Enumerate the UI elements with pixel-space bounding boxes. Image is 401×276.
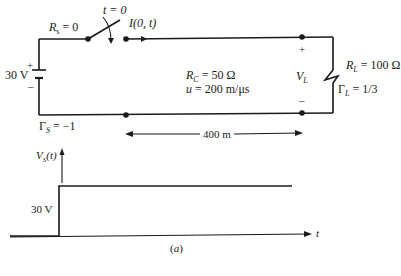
load-reflection-label: ΓL = 1/3 [338, 82, 378, 98]
switch-blade [88, 20, 120, 39]
x-axis-label: t [316, 227, 320, 239]
load-plus-sign: + [299, 43, 305, 55]
source-resistance-label: Rs = 0 [48, 20, 78, 36]
source-plus-sign: + [27, 59, 33, 71]
length-arrowhead-right-icon [295, 130, 303, 136]
load-voltage-label: VL [296, 69, 308, 85]
x-axis-arrowhead-icon [304, 231, 312, 237]
transmission-line-diagram: Rs = 0 t = 0 I(0, t) 30 V + – ΓS = −1 RC… [0, 0, 401, 276]
current-arrow-icon [141, 36, 147, 42]
load-top-dot [299, 34, 305, 40]
input-bottom-dot [123, 112, 129, 118]
load-bottom-dot [299, 110, 305, 116]
source-reflection-label: ΓS = −1 [39, 119, 75, 135]
source-minus-sign: – [27, 80, 34, 92]
step-value-label: 30 V [31, 203, 53, 215]
bottom-line-conductor [39, 113, 333, 115]
y-axis-label: VS(t) [36, 149, 57, 164]
current-label: I(0, t) [128, 16, 156, 30]
y-axis-arrowhead-icon [60, 148, 65, 155]
source-voltage-graph: VS(t) t 30 V (a) [10, 148, 320, 255]
velocity-label: u = 200 m/μs [186, 82, 250, 96]
load-resistor [325, 37, 338, 113]
figure-caption: (a) [170, 242, 183, 255]
load-resistance-label: RL = 100 Ω [345, 58, 401, 74]
length-arrowhead-left-icon [125, 131, 133, 137]
switch-arrowhead-icon [108, 38, 114, 44]
length-arrow-right [234, 133, 300, 134]
length-label: 400 m [203, 128, 231, 140]
load-minus-sign: – [298, 94, 305, 106]
source-voltage-label: 30 V [5, 68, 29, 82]
switch-time-label: t = 0 [103, 3, 126, 17]
